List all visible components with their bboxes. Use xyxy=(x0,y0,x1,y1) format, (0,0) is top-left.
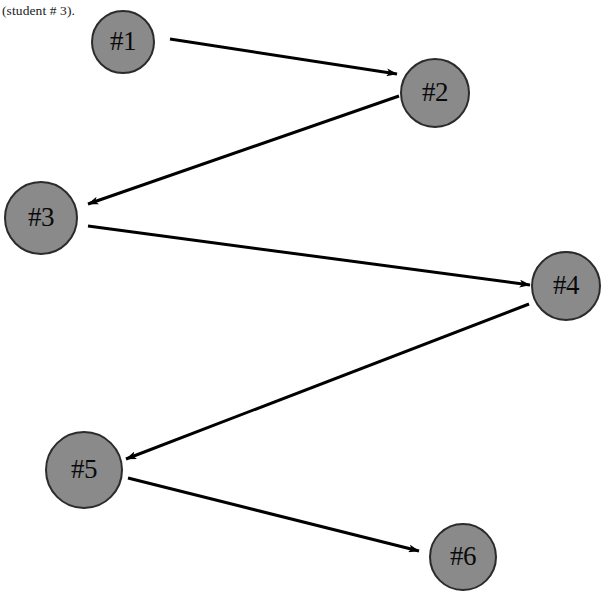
node-n6[interactable]: #6 xyxy=(429,523,497,591)
edge-n1-to-n2 xyxy=(170,39,397,74)
node-n5[interactable]: #5 xyxy=(45,431,123,509)
node-n2[interactable]: #2 xyxy=(400,58,470,128)
node-label: #4 xyxy=(553,272,579,299)
edge-layer xyxy=(0,0,606,600)
edge-n4-to-n5 xyxy=(126,304,529,459)
edge-n5-to-n6 xyxy=(128,478,419,551)
node-label: #5 xyxy=(71,456,97,483)
edge-n2-to-n3 xyxy=(88,96,399,204)
node-n4[interactable]: #4 xyxy=(531,251,601,321)
node-label: #2 xyxy=(422,79,448,106)
node-label: #6 xyxy=(450,543,476,570)
node-n3[interactable]: #3 xyxy=(4,181,78,255)
edge-group xyxy=(88,39,530,551)
node-n1[interactable]: #1 xyxy=(91,10,155,74)
node-label: #1 xyxy=(110,28,136,55)
edge-n3-to-n4 xyxy=(88,226,530,285)
node-label: #3 xyxy=(28,204,54,231)
diagram-canvas: (student # 3). #1#2#3#4#5#6 xyxy=(0,0,606,600)
